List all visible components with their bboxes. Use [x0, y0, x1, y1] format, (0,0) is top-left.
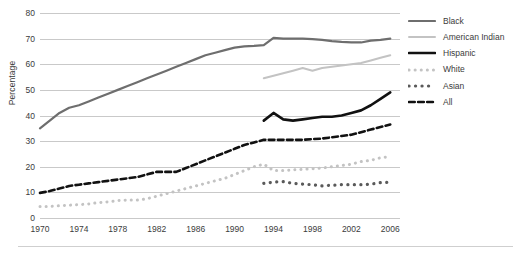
legend-label: White	[443, 65, 465, 74]
y-axis-tick-label: 10	[26, 188, 35, 197]
legend-swatch-icon	[408, 31, 436, 43]
x-axis-tick-label: 1982	[147, 225, 166, 234]
x-axis-tick-label: 2002	[342, 225, 361, 234]
legend-label: All	[443, 98, 452, 107]
x-axis-tick-label: 1994	[264, 225, 283, 234]
x-axis-tick-label: 1974	[69, 225, 88, 234]
legend-label: American Indian	[443, 33, 504, 42]
series-line	[40, 124, 390, 192]
y-axis-tick-label: 80	[26, 9, 35, 18]
y-axis-tick-label: 30	[26, 137, 35, 146]
series-lines	[40, 13, 400, 218]
x-axis-tick-label: 1970	[31, 225, 50, 234]
legend-item[interactable]: Asian	[408, 78, 523, 94]
series-line	[264, 55, 390, 78]
y-axis-tick-label: 0	[30, 214, 35, 223]
legend-swatch-icon	[408, 80, 436, 92]
x-axis-tick-label: 1990	[225, 225, 244, 234]
legend-swatch-icon	[408, 15, 436, 27]
series-line	[264, 92, 390, 120]
y-axis-tick-label: 40	[26, 111, 35, 120]
legend-swatch-icon	[408, 96, 436, 108]
legend-label: Hispanic	[443, 49, 476, 58]
x-axis-tick-label: 1998	[303, 225, 322, 234]
x-axis-tick-label: 2006	[381, 225, 400, 234]
x-axis-tick-label: 1978	[108, 225, 127, 234]
legend-item[interactable]: Black	[408, 13, 523, 29]
bottom-divider	[18, 246, 513, 247]
y-axis-tick-label: 70	[26, 34, 35, 43]
y-axis-tick-label: 20	[26, 163, 35, 172]
legend-swatch-icon	[408, 47, 436, 59]
legend-item[interactable]: All	[408, 94, 523, 110]
series-line	[264, 182, 390, 186]
legend-label: Black	[443, 17, 464, 26]
y-axis-tick-label: 60	[26, 60, 35, 69]
legend-item[interactable]: Hispanic	[408, 45, 523, 61]
legend-item[interactable]: American Indian	[408, 29, 523, 45]
chart-legend: BlackAmerican IndianHispanicWhiteAsianAl…	[408, 13, 523, 110]
series-line	[40, 157, 390, 207]
chart-figure: Percentage 80706050403020100 19701974197…	[0, 0, 527, 256]
y-axis-tick-label: 50	[26, 86, 35, 95]
legend-label: Asian	[443, 82, 464, 91]
plot-area: 80706050403020100 1970197419781982198619…	[40, 13, 400, 218]
legend-swatch-icon	[408, 64, 436, 76]
gridline	[40, 218, 400, 219]
legend-item[interactable]: White	[408, 62, 523, 78]
y-axis-title: Percentage	[7, 43, 17, 123]
x-axis-tick-label: 1986	[186, 225, 205, 234]
